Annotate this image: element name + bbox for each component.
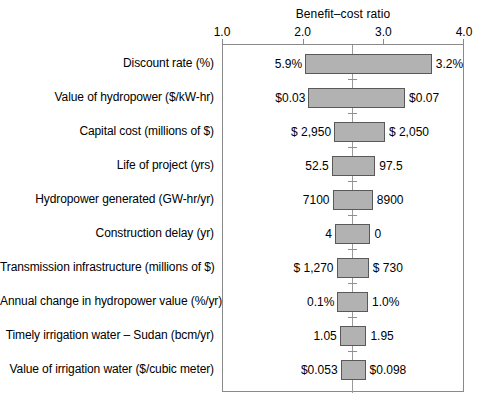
bar-low-value-label: 5.9%: [275, 57, 302, 71]
bar-low-value-label: 4: [325, 227, 332, 241]
tornado-bar: [340, 326, 367, 346]
x-axis-tick-label: 3.0: [375, 25, 392, 39]
tornado-bar: [335, 224, 370, 244]
bar-high-value-label: 8900: [377, 193, 404, 207]
baseline-row-tick: [348, 351, 357, 352]
tornado-bar: [341, 360, 366, 380]
baseline-row-tick: [348, 317, 357, 318]
baseline-row-tick: [348, 147, 357, 148]
bar-low-value-label: 1.05: [313, 329, 336, 343]
bar-high-value-label: 1.0%: [372, 295, 399, 309]
tornado-bar: [334, 122, 385, 142]
row-label: Discount rate (%): [0, 56, 214, 70]
bar-low-value-label: 52.5: [305, 159, 328, 173]
row-label: Hydropower generated (GW-hr/yr): [0, 192, 214, 206]
tornado-bar: [308, 88, 405, 108]
bar-low-value-label: $ 2,950: [291, 125, 331, 139]
tornado-row: Life of project (yrs)52.597.5: [0, 149, 482, 183]
tornado-row: Discount rate (%)5.9%3.2%: [0, 47, 482, 81]
bar-low-value-label: $0.03: [275, 91, 305, 105]
tornado-bar: [333, 190, 373, 210]
bar-low-value-label: $ 1,270: [294, 261, 334, 275]
baseline-row-tick: [348, 283, 357, 284]
tornado-row: Value of irrigation water ($/cubic meter…: [0, 353, 482, 387]
bar-high-value-label: $ 2,050: [389, 125, 429, 139]
chart-title: Benefit–cost ratio: [222, 7, 464, 21]
x-axis-tick-label: 4.0: [456, 25, 473, 39]
tornado-row: Capital cost (millions of $)$ 2,950$ 2,0…: [0, 115, 482, 149]
tornado-bar: [337, 258, 369, 278]
tornado-row: Transmission infrastructure (millions of…: [0, 251, 482, 285]
tornado-bar: [332, 156, 376, 176]
row-label: Timely irrigation water – Sudan (bcm/yr): [0, 328, 214, 342]
row-label: Annual change in hydropower value (%/yr): [0, 294, 214, 308]
bar-high-value-label: 3.2%: [436, 57, 463, 71]
baseline-row-tick: [348, 113, 357, 114]
bar-high-value-label: $0.098: [370, 363, 407, 377]
tornado-bar: [305, 54, 432, 74]
row-label: Life of project (yrs): [0, 158, 214, 172]
row-label: Construction delay (yr): [0, 226, 214, 240]
tornado-bar: [337, 292, 368, 312]
row-label: Value of irrigation water ($/cubic meter…: [0, 362, 214, 376]
bar-high-value-label: 0: [374, 227, 381, 241]
bar-high-value-label: 1.95: [370, 329, 393, 343]
baseline-row-tick: [348, 181, 357, 182]
row-label: Value of hydropower ($/kW-hr): [0, 90, 214, 104]
baseline-row-tick: [348, 215, 357, 216]
bar-low-value-label: $0.053: [301, 363, 338, 377]
bar-high-value-label: $ 730: [373, 261, 403, 275]
bar-low-value-label: 7100: [303, 193, 330, 207]
tornado-row: Value of hydropower ($/kW-hr)$0.03$0.07: [0, 81, 482, 115]
row-label: Capital cost (millions of $): [0, 124, 214, 138]
bar-high-value-label: $0.07: [409, 91, 439, 105]
bar-low-value-label: 0.1%: [307, 295, 334, 309]
x-axis-tick-label: 2.0: [294, 25, 311, 39]
tornado-row: Hydropower generated (GW-hr/yr)71008900: [0, 183, 482, 217]
tornado-row: Construction delay (yr)40: [0, 217, 482, 251]
tornado-row: Annual change in hydropower value (%/yr)…: [0, 285, 482, 319]
tornado-row: Timely irrigation water – Sudan (bcm/yr)…: [0, 319, 482, 353]
x-axis-tick-label: 1.0: [214, 25, 231, 39]
bar-high-value-label: 97.5: [379, 159, 402, 173]
baseline-row-tick: [348, 79, 357, 80]
tornado-diagram: Benefit–cost ratio 1.02.03.04.0 Discount…: [0, 0, 482, 403]
row-label: Transmission infrastructure (millions of…: [0, 260, 214, 274]
baseline-row-tick: [348, 249, 357, 250]
